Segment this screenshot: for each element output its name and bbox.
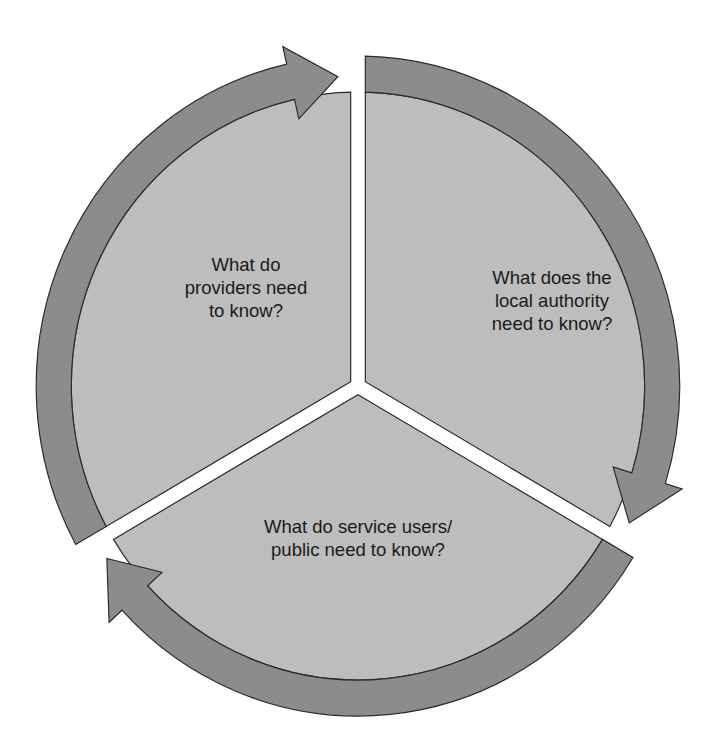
label-service-users: What do service users/ public need to kn…	[264, 515, 452, 561]
label-line: to know?	[185, 299, 307, 322]
label-line: providers need	[185, 276, 307, 299]
cycle-diagram	[0, 0, 717, 739]
label-line: What does the	[492, 266, 612, 289]
label-line: local authority	[492, 289, 612, 312]
label-line: What do	[185, 253, 307, 276]
label-line: need to know?	[492, 312, 612, 335]
label-line: public need to know?	[264, 538, 452, 561]
label-local-authority: What does the local authority need to kn…	[492, 266, 612, 335]
label-line: What do service users/	[264, 515, 452, 538]
label-providers: What do providers need to know?	[185, 253, 307, 322]
